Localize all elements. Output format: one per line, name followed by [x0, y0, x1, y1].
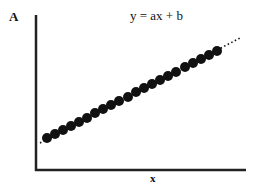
data-point: [171, 67, 181, 77]
data-points: [42, 46, 222, 143]
data-point: [212, 46, 222, 56]
y-axis-label: A: [9, 9, 18, 25]
x-axis-label: x: [150, 172, 156, 184]
data-point: [114, 96, 124, 106]
scatter-chart: [0, 0, 260, 189]
equation-annotation: y = ax + b: [130, 8, 183, 24]
